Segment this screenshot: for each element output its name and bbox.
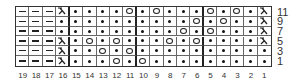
yarn-over-icon xyxy=(153,8,160,14)
knitting-chart-grid xyxy=(15,6,272,67)
purl-icon xyxy=(19,40,26,41)
knit-dot-icon xyxy=(209,49,212,52)
chart-cell xyxy=(164,46,177,56)
knit-dot-icon xyxy=(168,30,171,33)
chart-cell xyxy=(258,7,271,17)
chart-cell xyxy=(231,17,244,27)
chart-cell xyxy=(83,56,96,66)
knit-dot-icon xyxy=(195,10,198,13)
chart-cell xyxy=(231,46,244,56)
knit-dot-icon xyxy=(168,49,171,52)
knit-dot-icon xyxy=(222,60,225,63)
chart-cell xyxy=(190,7,203,17)
chart-cell xyxy=(137,46,150,56)
column-number-label: 3 xyxy=(231,71,244,80)
knit-dot-icon xyxy=(74,30,77,33)
chart-cell xyxy=(43,56,56,66)
chart-cell xyxy=(110,56,123,66)
chart-cell xyxy=(16,56,29,66)
chart-cell xyxy=(56,7,69,17)
chart-cell xyxy=(217,17,230,27)
chart-cell xyxy=(231,7,244,17)
decrease-icon xyxy=(259,7,269,15)
knit-dot-icon xyxy=(115,10,118,13)
knit-dot-icon xyxy=(60,30,63,33)
chart-row-1 xyxy=(16,56,271,66)
chart-cell xyxy=(137,27,150,37)
knit-dot-icon xyxy=(88,20,91,23)
knit-dot-icon xyxy=(168,10,171,13)
column-number-label: 17 xyxy=(43,71,56,80)
chart-cell xyxy=(83,37,96,47)
chart-cell xyxy=(56,17,69,27)
chart-cell xyxy=(150,56,163,66)
chart-cell xyxy=(70,56,83,66)
chart-cell xyxy=(231,27,244,37)
chart-cell xyxy=(190,37,203,47)
chart-cell xyxy=(177,17,190,27)
chart-row-9 xyxy=(16,17,271,27)
knit-dot-icon xyxy=(101,60,104,63)
knit-dot-icon xyxy=(209,60,212,63)
knit-dot-icon xyxy=(141,49,144,52)
chart-cell xyxy=(244,27,257,37)
knit-dot-icon xyxy=(115,30,118,33)
chart-cell xyxy=(110,27,123,37)
chart-cell xyxy=(70,17,83,27)
chart-cell xyxy=(150,46,163,56)
knit-dot-icon xyxy=(209,39,212,42)
decrease-icon xyxy=(57,37,67,45)
purl-icon xyxy=(46,30,53,31)
purl-icon xyxy=(46,11,53,12)
chart-cell xyxy=(110,37,123,47)
yarn-over-icon xyxy=(207,8,214,14)
chart-cell xyxy=(244,56,257,66)
yarn-over-icon xyxy=(193,38,200,44)
knit-dot-icon xyxy=(249,60,252,63)
chart-cell xyxy=(258,17,271,27)
knit-dot-icon xyxy=(128,60,131,63)
chart-cell xyxy=(190,27,203,37)
chart-cell xyxy=(137,37,150,47)
chart-cell xyxy=(150,7,163,17)
knit-dot-icon xyxy=(128,30,131,33)
column-number-label: 19 xyxy=(16,71,29,80)
chart-cell xyxy=(204,27,217,37)
chart-cell xyxy=(164,27,177,37)
chart-cell xyxy=(231,56,244,66)
yarn-over-icon xyxy=(99,48,106,54)
chart-cell xyxy=(123,27,136,37)
chart-cell xyxy=(83,27,96,37)
column-number-label: 18 xyxy=(29,71,42,80)
chart-cell xyxy=(204,56,217,66)
chart-row-7 xyxy=(16,27,271,37)
chart-cell xyxy=(164,56,177,66)
knit-dot-icon xyxy=(235,20,238,23)
chart-cell xyxy=(137,56,150,66)
chart-cell xyxy=(110,7,123,17)
chart-cell xyxy=(16,17,29,27)
knit-dot-icon xyxy=(195,30,198,33)
yarn-over-icon xyxy=(139,58,146,64)
chart-cell xyxy=(97,56,110,66)
chart-cell xyxy=(137,7,150,17)
column-number-label: 1 xyxy=(258,71,271,80)
chart-cell xyxy=(164,7,177,17)
chart-cell xyxy=(123,7,136,17)
chart-cell xyxy=(164,17,177,27)
purl-icon xyxy=(32,60,39,61)
column-number-label: 7 xyxy=(177,71,190,80)
column-number-label: 9 xyxy=(150,71,163,80)
chart-cell xyxy=(70,46,83,56)
purl-icon xyxy=(32,30,39,31)
chart-cell xyxy=(97,37,110,47)
chart-cell xyxy=(70,37,83,47)
purl-icon xyxy=(46,60,53,61)
knit-dot-icon xyxy=(115,49,118,52)
chart-cell xyxy=(70,7,83,17)
knit-dot-icon xyxy=(222,30,225,33)
knit-dot-icon xyxy=(74,20,77,23)
knit-dot-icon xyxy=(155,60,158,63)
yarn-over-icon xyxy=(180,28,187,34)
chart-cell xyxy=(177,56,190,66)
